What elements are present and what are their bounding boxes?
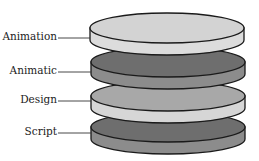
layer-disc-animation — [90, 13, 244, 55]
label-design: Design — [20, 93, 57, 105]
label-animation: Animation — [2, 30, 57, 42]
label-script: Script — [25, 125, 57, 137]
label-animatic: Animatic — [10, 64, 57, 76]
